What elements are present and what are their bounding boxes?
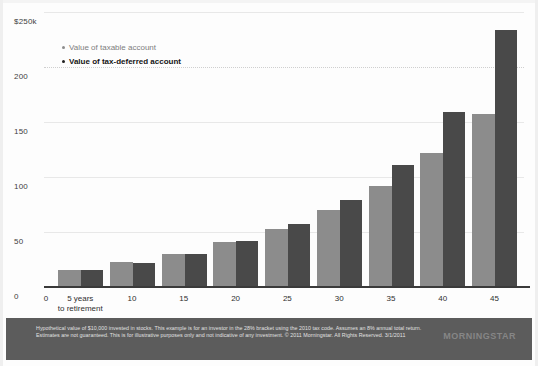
bar-tax-deferred bbox=[340, 200, 363, 287]
bar-tax-deferred bbox=[236, 241, 259, 287]
footer-bar: Hypothetical value of $10,000 invested i… bbox=[6, 318, 532, 360]
bar-tax-deferred bbox=[185, 254, 208, 287]
chart-container: $250k200150100500 05 yearsto retirement1… bbox=[0, 0, 538, 366]
bar-group bbox=[317, 12, 362, 287]
y-axis-tick-label: 50 bbox=[14, 237, 23, 246]
x-axis-tick-label-0: 0 bbox=[44, 294, 48, 304]
bar-group bbox=[265, 12, 310, 287]
bar-group bbox=[369, 12, 414, 287]
legend-label-taxable: Value of taxable account bbox=[69, 42, 156, 53]
frame-top-edge bbox=[0, 0, 538, 3]
x-axis-tick-sublabel: to retirement bbox=[58, 304, 103, 314]
bar-taxable bbox=[317, 210, 340, 287]
bar-tax-deferred bbox=[443, 112, 466, 287]
x-axis: 05 yearsto retirement1015202530354045 bbox=[0, 290, 538, 320]
x-axis-baseline bbox=[44, 286, 530, 288]
bar-tax-deferred bbox=[133, 263, 156, 287]
bar-tax-deferred bbox=[392, 165, 415, 287]
x-axis-tick-label: 45 bbox=[490, 294, 499, 304]
bar-taxable bbox=[110, 262, 133, 287]
bar-tax-deferred bbox=[495, 30, 518, 287]
x-axis-tick-label: 35 bbox=[386, 294, 395, 304]
x-axis-tick-label: 30 bbox=[335, 294, 344, 304]
bar-group bbox=[472, 12, 517, 287]
bar-tax-deferred bbox=[288, 224, 311, 287]
bar-taxable bbox=[472, 114, 495, 287]
x-axis-tick-label: 25 bbox=[283, 294, 292, 304]
bar-taxable bbox=[162, 254, 185, 287]
chart-legend: Value of taxable account Value of tax-de… bbox=[62, 42, 181, 70]
x-axis-tick-label: 20 bbox=[231, 294, 240, 304]
x-axis-tick-label: 5 yearsto retirement bbox=[58, 294, 103, 314]
legend-bullet-icon bbox=[62, 46, 65, 49]
legend-item-taxable: Value of taxable account bbox=[62, 42, 181, 53]
bar-group bbox=[213, 12, 258, 287]
x-axis-tick-label: 10 bbox=[128, 294, 137, 304]
y-axis-tick-label: 100 bbox=[14, 182, 28, 191]
footnote-text: Hypothetical value of $10,000 invested i… bbox=[36, 325, 428, 340]
legend-item-tax-deferred: Value of tax-deferred account bbox=[62, 56, 181, 67]
bar-tax-deferred bbox=[81, 270, 104, 287]
morningstar-logo: MORNINGSTAR bbox=[443, 331, 516, 341]
bar-group bbox=[420, 12, 465, 287]
bar-taxable bbox=[58, 270, 81, 287]
y-axis-tick-label: $250k bbox=[14, 17, 37, 26]
x-axis-tick-label: 15 bbox=[179, 294, 188, 304]
x-axis-tick-label: 40 bbox=[438, 294, 447, 304]
bar-taxable bbox=[265, 229, 288, 287]
bar-taxable bbox=[213, 242, 236, 287]
legend-label-tax-deferred: Value of tax-deferred account bbox=[69, 56, 181, 67]
bar-taxable bbox=[369, 186, 392, 287]
y-axis-tick-label: 150 bbox=[14, 127, 28, 136]
bar-taxable bbox=[420, 153, 443, 287]
legend-bullet-icon bbox=[62, 60, 65, 63]
y-axis-tick-label: 200 bbox=[14, 72, 28, 81]
